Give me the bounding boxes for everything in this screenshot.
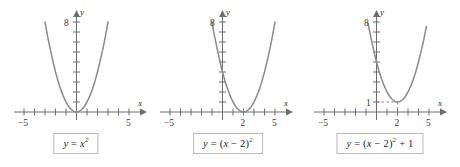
xtick-label-neg5-panel-3: −5 <box>318 118 328 128</box>
xtick-label-neg5-panel-2: −5 <box>164 118 174 128</box>
graph-panel-2: x y 8 −5 2 5 y = (x − 2)2 <box>152 0 304 167</box>
graph-panel-3: x y 8 1 −5 2 5 y = (x − 2)2 + 1 <box>304 0 456 167</box>
figure-root: x y 8 −5 5 y = x2 <box>0 0 460 167</box>
x-axis-2 <box>160 109 293 116</box>
equation-caption-1: y = x2 <box>53 133 98 154</box>
y-axis-2 <box>219 10 226 120</box>
axis-label-y-3: y <box>379 7 384 17</box>
axis-label-x-1: x <box>137 98 142 108</box>
y-axis-1 <box>73 10 80 120</box>
x-axis-3 <box>314 109 447 116</box>
axis-label-x-2: x <box>283 98 288 108</box>
ytick-label-8-panel-3: 8 <box>364 18 369 28</box>
xtick-label-2-panel-2: 2 <box>241 118 246 128</box>
axis-label-x-3: x <box>437 98 442 108</box>
y-axis-3 <box>373 10 380 120</box>
axis-label-y-2: y <box>225 7 230 17</box>
curve-parabola-2 <box>212 22 275 112</box>
ytick-label-8-panel-1: 8 <box>64 18 69 28</box>
caption-3-one: 1 <box>408 138 413 149</box>
ytick-label-1-panel-3: 1 <box>366 98 371 108</box>
xtick-label-neg5-panel-1: −5 <box>18 118 28 128</box>
xtick-label-5-panel-2: 5 <box>272 118 277 128</box>
plot-area-3: x y 8 1 −5 2 5 <box>304 0 456 128</box>
caption-1-exponent: 2 <box>85 136 89 144</box>
caption-2-exponent: 2 <box>249 136 253 144</box>
xtick-label-2-panel-3: 2 <box>395 118 400 128</box>
equation-caption-2: y = (x − 2)2 <box>193 133 263 154</box>
axis-label-y-1: y <box>79 7 84 17</box>
ytick-label-8-panel-2: 8 <box>210 18 215 28</box>
plot-area-1: x y 8 −5 5 <box>0 0 152 128</box>
equation-caption-3: y = (x − 2)2 + 1 <box>336 133 423 154</box>
xtick-label-5-panel-1: 5 <box>126 118 131 128</box>
xtick-label-5-panel-3: 5 <box>426 118 431 128</box>
plot-area-2: x y 8 −5 2 5 <box>152 0 304 128</box>
graph-panel-1: x y 8 −5 5 y = x2 <box>0 0 152 167</box>
